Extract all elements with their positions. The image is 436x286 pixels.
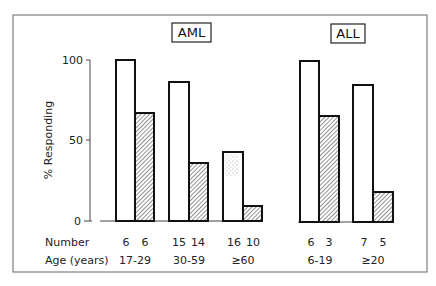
bar-open	[300, 61, 319, 222]
svg-text:6-19: 6-19	[308, 254, 333, 267]
svg-text:10: 10	[246, 236, 260, 249]
y-axis-label: % Responding	[42, 101, 55, 179]
y-tick-100: 100	[62, 54, 83, 67]
age-row: 17-29 30-59 ≥60 6-19 ≥20	[119, 254, 385, 267]
svg-text:6: 6	[308, 236, 315, 249]
svg-text:16: 16	[227, 236, 241, 249]
response-bar-chart: AML ALL 100 50 0 % Responding	[0, 0, 436, 286]
bar-hatched	[373, 192, 393, 222]
svg-text:17-29: 17-29	[119, 254, 151, 267]
row-label-age: Age (years)	[45, 254, 109, 267]
numbers-row: 6 6 15 14 16 10 6 3 7 5	[123, 236, 387, 249]
y-tick-50: 50	[69, 134, 83, 147]
svg-text:30-59: 30-59	[173, 254, 205, 267]
aml-group-60-plus	[223, 152, 262, 221]
bar-hatched	[135, 113, 154, 221]
panel-label-all: ALL	[331, 24, 365, 43]
svg-text:AML: AML	[178, 25, 206, 40]
svg-text:14: 14	[191, 236, 205, 249]
bar-open	[353, 85, 373, 222]
aml-group-30-59	[169, 82, 208, 221]
svg-text:6: 6	[142, 236, 149, 249]
bar-hatched	[243, 206, 262, 221]
bar-open	[169, 82, 189, 221]
svg-text:≥20: ≥20	[361, 254, 384, 267]
all-group-6-19	[300, 61, 339, 222]
bar-open	[116, 60, 135, 221]
all-group-20-plus	[353, 85, 393, 222]
panel-label-aml: AML	[172, 23, 211, 42]
svg-text:6: 6	[123, 236, 130, 249]
svg-text:ALL: ALL	[336, 26, 360, 41]
svg-text:≥60: ≥60	[231, 254, 254, 267]
bar-hatched	[319, 116, 339, 222]
y-tick-0: 0	[74, 215, 81, 228]
y-axis: 100 50 0 % Responding	[42, 54, 92, 228]
svg-text:5: 5	[380, 236, 387, 249]
svg-text:3: 3	[326, 236, 333, 249]
aml-group-17-29	[116, 60, 154, 221]
svg-text:7: 7	[361, 236, 368, 249]
svg-text:15: 15	[172, 236, 186, 249]
row-label-number: Number	[45, 236, 90, 249]
bar-hatched	[189, 163, 208, 221]
